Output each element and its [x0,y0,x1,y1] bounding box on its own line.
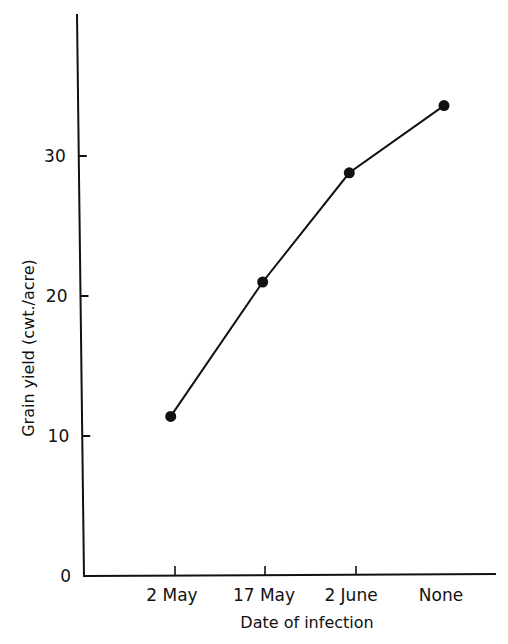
y-tick-label: 30 [44,146,66,166]
x-axis [83,574,496,576]
x-tick-label: None [419,585,463,605]
x-ticks: 2 May17 May2 JuneNone [146,566,463,605]
data-point [165,411,176,422]
line-chart: 0102030 2 May17 May2 JuneNone Date of in… [0,0,508,644]
y-axis-title: Grain yield (cwt./acre) [19,259,38,437]
x-tick-label: 2 May [146,585,197,605]
x-axis-title: Date of infection [240,613,373,632]
x-tick-label: 17 May [233,585,295,605]
data-point [257,277,268,288]
y-tick-label: 0 [60,566,71,586]
y-tick-label: 10 [48,426,70,446]
data-point [439,100,450,111]
y-tick-label: 20 [46,286,68,306]
x-tick-label: 2 June [324,585,377,605]
data-point [344,167,355,178]
data-markers [165,100,449,422]
data-line [171,106,444,417]
